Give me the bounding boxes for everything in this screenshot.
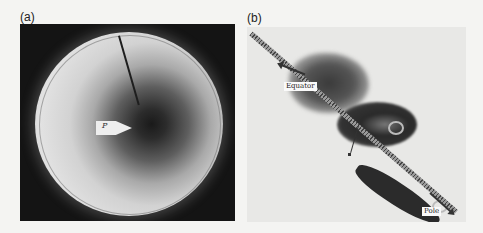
eddy-swirl-icon xyxy=(388,121,404,135)
pointer-label: P xyxy=(102,121,107,130)
sloping-boundary xyxy=(249,32,458,214)
equator-label: Equator xyxy=(284,82,317,91)
marker-dot xyxy=(348,153,351,156)
panel-b-photo: Equator Pole xyxy=(247,27,466,222)
panel-a-label: (a) xyxy=(20,10,35,24)
pole-label: Pole xyxy=(422,207,441,216)
panel-b-label: (b) xyxy=(247,11,262,25)
panel-a-photo: P xyxy=(20,24,235,221)
tank-rim xyxy=(39,35,221,215)
